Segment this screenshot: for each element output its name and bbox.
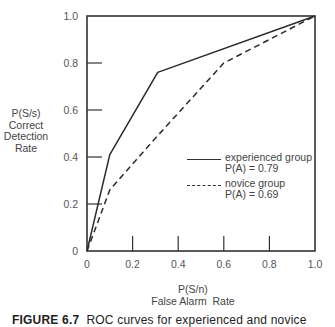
y-axis-title-line: P(S/s): [0, 108, 52, 120]
legend-item-novice: novice group P(A) = 0.69: [185, 177, 315, 203]
y-tick-label: 1.0: [63, 10, 78, 22]
legend: experienced group P(A) = 0.79 novice gro…: [185, 151, 315, 203]
x-tick-label: 0.4: [171, 258, 186, 270]
dashed-line-swatch-icon: [187, 185, 221, 186]
solid-line-swatch-icon: [187, 159, 221, 160]
plot-frame: [87, 16, 315, 251]
x-axis-title-line: P(S/n): [143, 284, 243, 296]
caption-text: ROC curves for experienced and novice: [86, 313, 306, 327]
y-tick-label: 0.8: [63, 57, 78, 69]
caption-prefix: FIGURE 6.7: [12, 313, 79, 327]
legend-value: P(A) = 0.79: [225, 163, 312, 174]
experienced-roc-curve: [87, 16, 315, 251]
x-tick-label: 1.0: [308, 258, 323, 270]
y-tick-label: 0.4: [63, 151, 78, 163]
x-axis-title-line: False Alarm Rate: [143, 296, 243, 308]
y-axis-title-line: Rate: [0, 143, 52, 155]
y-tick-label: 0: [72, 245, 78, 257]
figure-caption: FIGURE 6.7 ROC curves for experienced an…: [12, 313, 307, 327]
novice-roc-curve: [87, 16, 315, 251]
x-tick-label: 0.2: [125, 258, 140, 270]
y-axis-title: P(S/s) Correct Detection Rate: [0, 108, 52, 154]
y-tick-label: 0.2: [63, 198, 78, 210]
legend-item-experienced: experienced group P(A) = 0.79: [185, 151, 315, 177]
legend-value: P(A) = 0.69: [225, 189, 285, 200]
y-tick-label: 0.6: [63, 104, 78, 116]
x-tick-label: 0: [84, 258, 90, 270]
x-tick-label: 0.8: [262, 258, 277, 270]
x-tick-label: 0.6: [216, 258, 231, 270]
x-axis-title: P(S/n) False Alarm Rate: [143, 284, 243, 307]
y-axis-title-line: Detection: [0, 131, 52, 143]
